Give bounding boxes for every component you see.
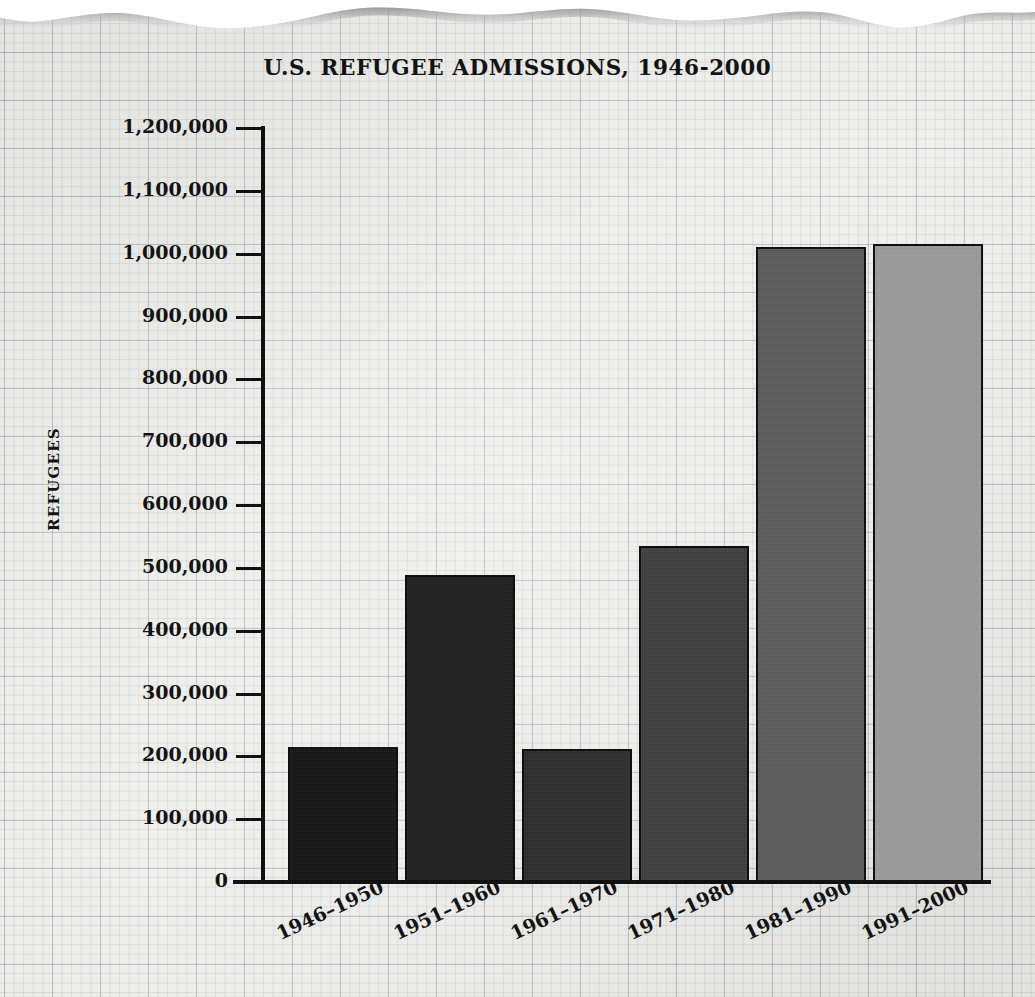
y-axis-tick-label-text: 1,200,000 — [122, 115, 228, 137]
y-axis-tick — [236, 630, 262, 633]
y-axis-tick — [236, 378, 262, 381]
bar — [639, 546, 749, 882]
bar-texture — [290, 749, 396, 880]
bar — [873, 244, 983, 882]
x-axis-tick-label: 1981–1990 — [741, 875, 855, 944]
y-axis-tick-label-text: 900,000 — [142, 304, 228, 326]
bar — [288, 747, 398, 882]
bar — [405, 575, 515, 882]
y-axis-tick-labels: 0100,000200,000300,000400,000500,000600,… — [0, 0, 228, 997]
x-axis-tick-label: 1946–1950 — [273, 875, 387, 944]
y-axis-tick — [236, 567, 262, 570]
bar-texture — [407, 577, 513, 880]
y-axis-tick-label-text: 400,000 — [142, 618, 228, 640]
y-axis-tick-label-text: 600,000 — [142, 492, 228, 514]
x-axis-tick-label: 1961–1970 — [507, 875, 621, 944]
y-axis-tick-label-text: 700,000 — [142, 429, 228, 451]
chart-canvas: U.S. REFUGEE ADMISSIONS, 1946-2000 REFUG… — [0, 0, 1035, 997]
bar-texture — [875, 246, 981, 880]
y-axis-tick-label-text: 1,000,000 — [122, 241, 228, 263]
y-axis-tick-label-text: 200,000 — [142, 743, 228, 765]
y-axis-tick-label-text: 800,000 — [142, 366, 228, 388]
y-axis-tick-label-text: 300,000 — [142, 681, 228, 703]
y-axis-tick — [236, 818, 262, 821]
y-axis-tick — [236, 881, 262, 884]
x-axis-tick-label: 1971–1980 — [624, 875, 738, 944]
y-axis-tick — [236, 693, 262, 696]
bar-texture — [641, 548, 747, 880]
y-axis-tick — [236, 504, 262, 507]
y-axis-tick-label-text: 0 — [215, 869, 228, 891]
y-axis-tick — [236, 190, 262, 193]
y-axis-tick-label-text: 100,000 — [142, 806, 228, 828]
y-axis-tick-label-text: 1,100,000 — [122, 178, 228, 200]
y-axis-tick — [236, 755, 262, 758]
y-axis-tick — [236, 253, 262, 256]
x-axis-tick-label: 1951–1960 — [390, 875, 504, 944]
x-axis-tick-label: 1991–2000 — [858, 875, 972, 944]
y-axis-tick — [236, 127, 262, 130]
bar-texture — [758, 249, 864, 880]
bar-texture — [524, 751, 630, 880]
y-axis-tick-label-text: 500,000 — [142, 555, 228, 577]
bar — [522, 749, 632, 882]
y-axis-tick — [236, 441, 262, 444]
bar — [756, 247, 866, 882]
y-axis-tick — [236, 316, 262, 319]
